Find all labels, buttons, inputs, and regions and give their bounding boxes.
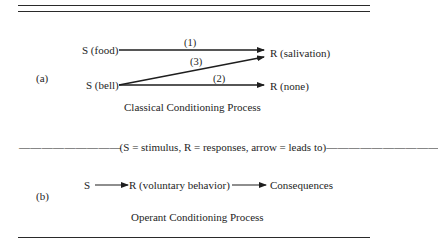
legend-text: (S = stimulus, R = responses, arrow = le… (120, 141, 327, 153)
response-none: R (none) (270, 80, 309, 92)
stimulus-bell: S (bell) (86, 79, 119, 91)
caption-operant: Operant Conditioning Process (131, 211, 264, 223)
operant-response: R (voluntary behavior) (129, 179, 230, 191)
bottom-rule (18, 237, 370, 238)
panel-a-label: (a) (36, 72, 48, 84)
legend-dashes-right: — — — — — — — — — — (326, 141, 438, 153)
operant-stimulus: S (84, 179, 90, 191)
arrow-label-3: (3) (190, 56, 202, 68)
arrow-label-2: (2) (213, 73, 225, 85)
legend-line: — — — — — — — — —(S = stimulus, R = resp… (19, 141, 438, 153)
stimulus-food: S (food) (82, 44, 118, 56)
response-salivation: R (salivation) (270, 47, 330, 59)
operant-consequences: Consequences (270, 179, 333, 191)
panel-b-label: (b) (36, 190, 49, 202)
caption-classical: Classical Conditioning Process (124, 101, 261, 113)
arrow-label-1: (1) (184, 37, 196, 49)
legend-dashes-left: — — — — — — — — — (19, 141, 120, 153)
